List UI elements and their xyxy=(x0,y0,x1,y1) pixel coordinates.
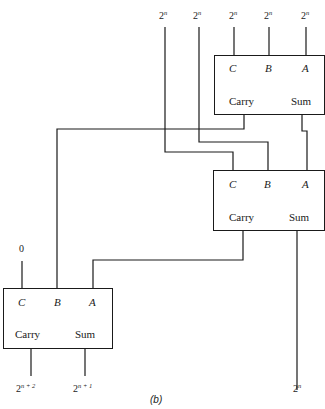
input-label-5: 2n xyxy=(301,8,309,21)
adder-bottom-input-b: B xyxy=(54,297,61,308)
constant-zero-label: 0 xyxy=(19,244,24,254)
wire-top-sum-to-middle-a xyxy=(302,114,307,170)
adder-bottom-input-a: A xyxy=(89,297,96,308)
adder-top: C B A Carry Sum xyxy=(214,55,325,115)
adder-middle-output-sum: Sum xyxy=(289,212,309,223)
output-label-middle-sum: 2n xyxy=(293,381,301,394)
input-label-4: 2n xyxy=(264,8,272,21)
figure-caption: (b) xyxy=(150,394,162,405)
adder-top-input-b: B xyxy=(265,63,272,74)
wire-middle-carry-to-bottom-a xyxy=(93,230,243,288)
output-label-sum: 2n + 1 xyxy=(73,381,92,394)
adder-middle-input-b: B xyxy=(264,179,271,190)
input-label-3: 2n xyxy=(229,8,237,21)
adder-top-input-c: C xyxy=(229,63,236,74)
adder-top-input-a: A xyxy=(302,63,309,74)
adder-bottom-output-sum: Sum xyxy=(75,329,95,340)
adder-bottom: C B A Carry Sum xyxy=(3,288,113,349)
adder-middle-output-carry: Carry xyxy=(229,212,254,223)
output-label-carry: 2n + 2 xyxy=(16,381,35,394)
adder-middle-input-a: A xyxy=(302,179,309,190)
adder-top-output-carry: Carry xyxy=(229,96,254,107)
input-label-2: 2n xyxy=(193,8,201,21)
adder-bottom-output-carry: Carry xyxy=(15,329,40,340)
adder-top-output-sum: Sum xyxy=(291,96,311,107)
adder-middle: C B A Carry Sum xyxy=(213,170,325,231)
adder-bottom-input-c: C xyxy=(18,297,25,308)
adder-middle-input-c: C xyxy=(229,179,236,190)
input-label-1: 2n xyxy=(159,8,167,21)
